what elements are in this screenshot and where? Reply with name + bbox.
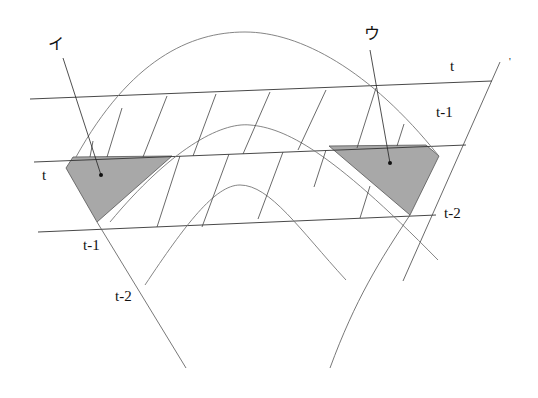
label-left-t1: t-1 — [83, 238, 100, 253]
parallelogram-diagram — [0, 0, 538, 398]
hatch-lines-lower — [157, 150, 370, 227]
label-left-t2: t-2 — [115, 289, 132, 304]
lower-right-line — [330, 215, 410, 368]
left-diagonal-line — [97, 222, 186, 368]
label-right-t2: t-2 — [444, 206, 461, 221]
arc-top — [76, 32, 438, 157]
label-right-t: t — [450, 59, 454, 74]
pointer-u-dot — [388, 161, 392, 165]
axis-line-t — [30, 81, 492, 99]
label-right-t1: t-1 — [436, 105, 453, 120]
label-u: ウ — [364, 26, 380, 42]
label-left-t: t — [42, 168, 46, 183]
pointer-i-dot — [99, 173, 103, 177]
shaded-region-u — [329, 145, 439, 215]
label-i: イ — [48, 36, 64, 52]
arc-bottom — [145, 185, 346, 285]
label-top-right-mark: ' — [509, 57, 511, 67]
